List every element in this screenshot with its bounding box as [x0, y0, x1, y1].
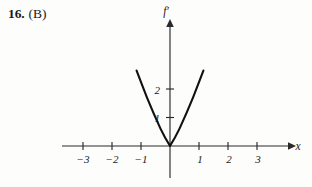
x-tick-label-pos1: 1	[197, 153, 203, 165]
y-tick-label-pos2: 2	[155, 84, 161, 96]
x-tick-label-neg1: −1	[135, 153, 148, 165]
graph-plot: −3 −2 −1 1 2 3 1 2 x f′	[0, 0, 312, 187]
y-axis-label: f′	[163, 5, 169, 18]
x-tick-label-neg3: −3	[77, 153, 90, 165]
x-axis-label: x	[294, 140, 301, 152]
y-axis-arrowhead	[166, 19, 174, 27]
x-tick-label-neg2: −2	[106, 153, 119, 165]
x-tick-label-pos3: 3	[254, 153, 261, 165]
figure-container: 16.(B) −3 −2 −1 1 2 3 1 2 x f′	[0, 0, 312, 187]
x-tick-label-pos2: 2	[226, 153, 232, 165]
